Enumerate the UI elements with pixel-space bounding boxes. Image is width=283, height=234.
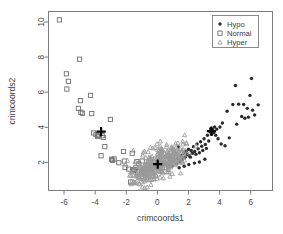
x-tick-label: 0 [155, 198, 160, 207]
data-point-circle [194, 153, 197, 156]
data-point-square [103, 145, 107, 149]
data-point-circle [256, 103, 259, 106]
data-point-circle [199, 140, 202, 143]
data-point-square [66, 79, 70, 83]
data-point-square [78, 99, 82, 103]
data-point-circle [198, 151, 201, 154]
data-point-circle [219, 142, 222, 145]
data-point-square [90, 112, 94, 116]
data-point-circle [225, 109, 228, 112]
data-point-square [108, 117, 112, 121]
data-point-circle [203, 158, 206, 161]
data-point-circle [193, 161, 196, 164]
data-point-circle [223, 144, 226, 147]
data-point-triangle [148, 145, 152, 149]
data-point-circle [189, 155, 192, 158]
data-point-circle [205, 147, 208, 150]
data-point-circle [243, 116, 246, 119]
x-tick-label: -4 [92, 198, 100, 207]
data-point-circle [206, 134, 209, 137]
data-point-circle [216, 137, 219, 140]
data-point-square [99, 154, 103, 158]
legend: HypoNormalHyper [213, 16, 259, 48]
legend-label-hyper: Hyper [227, 38, 248, 47]
data-point-circle [247, 115, 250, 118]
data-point-triangle [137, 189, 141, 193]
data-point-triangle [149, 182, 153, 186]
data-point-circle [187, 163, 190, 166]
data-point-circle [237, 102, 240, 105]
scatter-plot-figure: -6-4-20246246810crimcoords1crimcoords2Hy… [0, 0, 283, 234]
data-point-triangle [178, 171, 182, 175]
x-tick-label: 2 [186, 198, 191, 207]
data-point-circle [201, 149, 204, 152]
data-point-circle [198, 160, 201, 163]
data-point-circle [235, 122, 238, 125]
x-tick-label: 6 [248, 198, 253, 207]
data-point-circle [218, 125, 221, 128]
data-point-square [117, 161, 121, 165]
y-tick-label: 8 [37, 54, 46, 59]
data-point-circle [240, 115, 243, 118]
data-point-triangle [182, 133, 186, 137]
data-point-circle [228, 136, 231, 139]
data-point-circle [200, 145, 203, 148]
data-point-triangle [158, 139, 162, 143]
y-tick-label: 10 [37, 17, 46, 27]
data-point-square [88, 93, 92, 97]
data-point-circle [248, 94, 251, 97]
data-point-circle [242, 103, 245, 106]
data-point-circle [234, 84, 237, 87]
y-axis-title: crimcoords2 [7, 77, 17, 124]
legend-label-hypo: Hypo [227, 20, 245, 29]
legend-label-normal: Normal [227, 29, 252, 38]
data-point-triangle [168, 174, 172, 178]
x-tick-label: 4 [217, 198, 222, 207]
data-point-circle [214, 134, 217, 137]
series-normal [57, 18, 146, 184]
data-point-circle [246, 107, 249, 110]
data-point-circle [202, 137, 205, 140]
x-tick-label: -2 [123, 198, 131, 207]
y-tick-label: 4 [37, 125, 46, 130]
data-point-circle [251, 108, 254, 111]
x-axis-title: crimcoords1 [137, 213, 184, 223]
data-point-square [65, 87, 69, 91]
y-tick-label: 6 [37, 90, 46, 95]
data-point-square [64, 72, 68, 76]
data-point-circle [221, 121, 224, 124]
crimcoords-scatter-chart: -6-4-20246246810crimcoords1crimcoords2Hy… [0, 0, 283, 234]
data-point-square [78, 57, 82, 61]
data-point-circle [250, 77, 253, 80]
x-tick-label: -6 [60, 198, 68, 207]
data-point-circle [231, 103, 234, 106]
data-point-circle [253, 113, 256, 116]
data-point-circle [204, 143, 207, 146]
data-point-square [121, 149, 125, 153]
data-point-circle [218, 22, 221, 25]
data-point-circle [182, 165, 185, 168]
data-point-circle [207, 139, 210, 142]
data-point-triangle [161, 176, 165, 180]
data-point-square [57, 18, 61, 22]
y-tick-label: 2 [37, 160, 46, 165]
